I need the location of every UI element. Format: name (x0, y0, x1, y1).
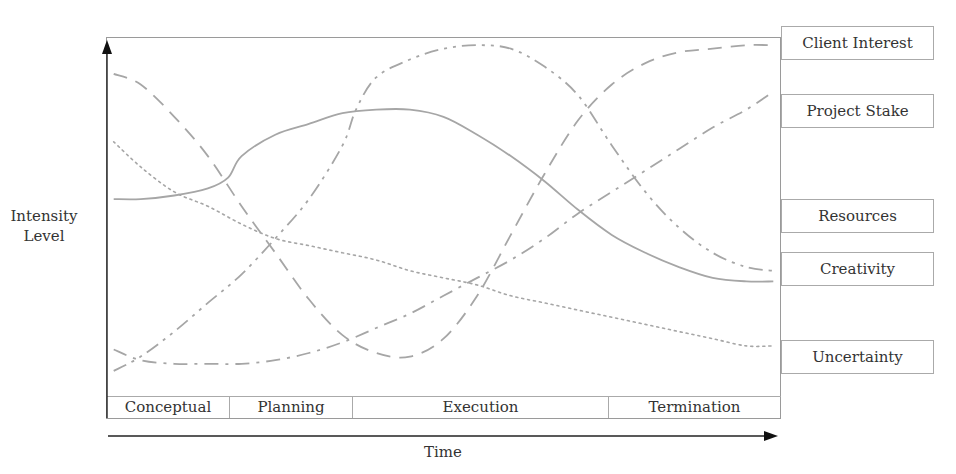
series-project-stake (114, 92, 774, 364)
y-axis-arrowhead-icon (102, 40, 112, 54)
legend-project-stake: Project Stake (781, 94, 934, 128)
y-axis-label: Intensity Level (6, 206, 82, 246)
series-creativity (114, 109, 774, 282)
phase-planning: Planning (230, 396, 353, 418)
x-axis-label: Time (413, 443, 473, 461)
phase-execution: Execution (353, 396, 609, 418)
series-uncertainty (114, 142, 774, 347)
series-group (114, 45, 774, 371)
series-client-interest (114, 45, 774, 358)
legend-uncertainty: Uncertainty (781, 340, 934, 374)
y-axis-label-line1: Intensity (6, 206, 82, 226)
plot-frame (107, 38, 781, 419)
legend-resources: Resources (781, 199, 934, 233)
legend-client-interest: Client Interest (781, 26, 934, 60)
y-axis-label-line2: Level (6, 226, 82, 246)
phase-termination: Termination (609, 396, 780, 418)
x-axis-arrowhead-icon (764, 431, 778, 441)
legend-creativity: Creativity (781, 252, 934, 286)
phase-conceptual: Conceptual (107, 396, 230, 418)
